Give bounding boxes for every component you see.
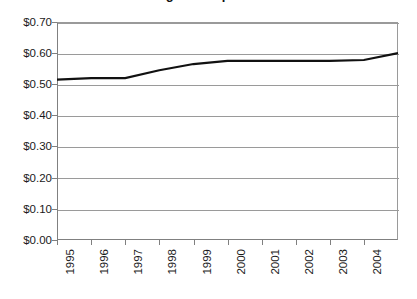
chart-figure: Average Price per Gallon $0.70 $0.60 $0.… [0, 0, 417, 299]
x-tick-label-2000: 2000 [235, 249, 247, 275]
x-tick-label-1998: 1998 [166, 249, 178, 275]
x-tick-mark-2001 [262, 240, 263, 245]
x-tick-mark-1996 [91, 240, 92, 245]
x-axis: 1995 1996 1997 1998 1999 2000 2001 2002 … [0, 0, 417, 299]
x-tick-label-1996: 1996 [98, 249, 110, 275]
x-tick-label-2002: 2002 [303, 249, 315, 275]
x-tick-mark-1997 [125, 240, 126, 245]
x-tick-mark-2004 [364, 240, 365, 245]
x-tick-mark-1999 [194, 240, 195, 245]
x-tick-label-2001: 2001 [269, 249, 281, 275]
x-tick-label-1999: 1999 [201, 249, 213, 275]
x-tick-mark-2002 [296, 240, 297, 245]
x-tick-label-2003: 2003 [337, 249, 349, 275]
x-tick-mark-2000 [228, 240, 229, 245]
x-tick-label-1997: 1997 [132, 249, 144, 275]
x-tick-mark-2003 [330, 240, 331, 245]
x-tick-label-1995: 1995 [64, 249, 76, 275]
x-tick-label-2004: 2004 [371, 249, 383, 275]
x-tick-mark-1995 [57, 240, 58, 245]
x-tick-mark-1998 [159, 240, 160, 245]
